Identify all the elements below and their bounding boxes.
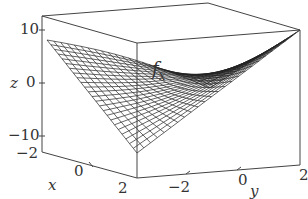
- annotation-fx: fx: [152, 60, 165, 82]
- y-tick-neg2: −2: [168, 180, 190, 195]
- wireframe-mesh: [47, 30, 300, 153]
- x-tick-0: 0: [74, 164, 84, 179]
- x-axis-label: x: [48, 178, 56, 193]
- bounding-box-back: [42, 3, 300, 30]
- y-axis-label: y: [250, 184, 258, 199]
- x-tick-neg2: −2: [16, 146, 38, 161]
- z-tick-10: 10: [20, 22, 39, 37]
- z-tick-neg10: −10: [8, 128, 40, 143]
- surface-plot: [0, 0, 308, 199]
- y-tick-0: 0: [238, 173, 248, 188]
- y-tick-2: 2: [299, 168, 308, 183]
- z-tick-0: 0: [26, 75, 36, 90]
- x-tick-2: 2: [118, 181, 128, 196]
- z-axis-label: z: [10, 76, 18, 91]
